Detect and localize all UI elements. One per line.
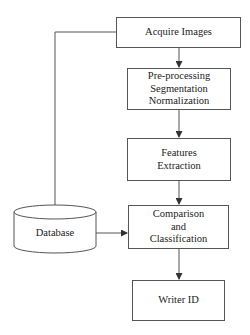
node-label: Normalization bbox=[149, 95, 210, 108]
arrow-acquire-to-database bbox=[55, 32, 116, 213]
node-comparison-classification: Comparison and Classification bbox=[128, 205, 229, 249]
node-writer-id: Writer ID bbox=[132, 280, 225, 321]
node-label: Writer ID bbox=[158, 294, 199, 307]
node-preprocessing: Pre-processing Segmentation Normalizatio… bbox=[127, 68, 231, 110]
node-label: Segmentation bbox=[150, 83, 208, 96]
node-label: Extraction bbox=[157, 160, 201, 173]
node-label: and bbox=[171, 221, 186, 234]
database-label: Database bbox=[14, 227, 96, 238]
node-features-extraction: Features Extraction bbox=[127, 138, 231, 181]
node-label: Acquire Images bbox=[145, 26, 212, 39]
node-label: Comparison bbox=[153, 208, 204, 221]
node-label: Classification bbox=[150, 233, 208, 246]
node-acquire-images: Acquire Images bbox=[116, 17, 241, 48]
node-label: Features bbox=[161, 147, 197, 160]
node-label: Pre-processing bbox=[148, 70, 210, 83]
